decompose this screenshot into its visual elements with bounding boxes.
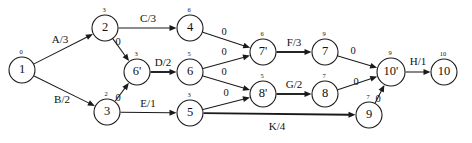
edge-label-e3: C/3 (140, 12, 156, 24)
node-earliest-time: 7 (366, 93, 370, 100)
edge-n3-to-n5 (121, 112, 171, 113)
arrowhead-icon (370, 63, 378, 69)
node-id-label: 10' (384, 64, 399, 78)
node-id-label: 1 (19, 62, 25, 76)
edge-label-e10: 0 (221, 66, 226, 77)
arrowhead-icon (123, 54, 129, 61)
node-4[interactable]: 46 (177, 6, 203, 41)
edge-label-e1: A/3 (52, 33, 69, 45)
edge-n7-to-n10p (338, 56, 371, 66)
node-id-label: 8 (322, 86, 328, 100)
node-id-label: 6 (187, 64, 193, 78)
edge-label-e4: 0 (115, 36, 120, 47)
arrowhead-icon (243, 43, 251, 49)
edge-label-e8: 0 (221, 26, 226, 37)
edge-label-e16: 0 (375, 93, 380, 104)
edge-label-e5: 0 (115, 92, 120, 103)
node-8[interactable]: 87 (312, 72, 338, 107)
edge-label-e12: F/3 (287, 36, 302, 48)
edge-label-e2: B/2 (54, 93, 70, 105)
node-id-label: 8' (259, 86, 268, 100)
node-7-prime[interactable]: 7'6 (250, 30, 276, 65)
node-earliest-time: 6 (260, 30, 264, 37)
arrowhead-icon (242, 96, 250, 102)
arrowhead-icon (305, 91, 312, 97)
arrowhead-icon (170, 69, 177, 75)
node-earliest-time: 9 (388, 49, 391, 56)
node-8-prime[interactable]: 8'5 (250, 72, 276, 107)
nodes-layer: 1023326'34665537'68'579879710'91010 (9, 6, 457, 128)
node-earliest-time: 2 (104, 90, 107, 97)
arrowhead-icon (170, 25, 177, 31)
node-id-label: 3 (104, 104, 110, 118)
node-2[interactable]: 23 (92, 6, 118, 41)
node-id-label: 4 (187, 20, 194, 34)
node-id-label: 7 (322, 44, 328, 58)
edge-n5-to-n9 (204, 113, 350, 115)
edge-label-e18: H/1 (410, 55, 427, 67)
edge-label-e17: K/4 (269, 120, 286, 132)
node-6-prime[interactable]: 6'3 (124, 50, 150, 85)
edge-n5-to-n8p (203, 99, 244, 110)
node-earliest-time: 0 (19, 48, 22, 55)
node-id-label: 7' (259, 44, 268, 58)
node-6[interactable]: 65 (177, 50, 203, 85)
network-diagram: A/3B/2C/300D/2E/10000F/3G/2000K/4H/1 102… (0, 0, 472, 143)
edge-label-e15: 0 (353, 76, 358, 87)
edge-label-e11: 0 (223, 87, 228, 98)
node-1[interactable]: 10 (9, 48, 35, 83)
node-earliest-time: 7 (322, 72, 326, 79)
edge-label-e9: 0 (221, 46, 226, 57)
node-earliest-time: 6 (187, 6, 191, 13)
node-id-label: 5 (187, 105, 193, 119)
node-earliest-time: 3 (102, 6, 105, 13)
arrowhead-icon (122, 83, 129, 90)
edge-label-e14: 0 (350, 45, 355, 56)
node-earliest-time: 5 (187, 50, 190, 57)
arrowhead-icon (370, 76, 378, 82)
node-id-label: 6' (133, 64, 142, 78)
edge-label-e6: D/2 (155, 56, 172, 68)
node-earliest-time: 3 (134, 50, 137, 57)
arrowhead-icon (424, 69, 431, 75)
node-id-label: 9 (366, 107, 372, 121)
arrowhead-icon (242, 55, 250, 61)
node-earliest-time: 5 (260, 72, 263, 79)
arrowhead-icon (305, 49, 312, 55)
node-10-prime[interactable]: 10'9 (377, 49, 405, 86)
node-5[interactable]: 53 (177, 91, 203, 126)
arrowhead-icon (348, 112, 355, 118)
graph-canvas: A/3B/2C/300D/2E/10000F/3G/2000K/4H/1 102… (0, 0, 472, 143)
edge-label-e7: E/1 (140, 97, 155, 109)
edge-label-e13: G/2 (286, 78, 303, 90)
arrowhead-icon (169, 110, 176, 116)
node-earliest-time: 3 (187, 91, 190, 98)
node-10[interactable]: 1010 (431, 50, 457, 85)
node-id-label: 10 (438, 64, 451, 78)
arrowhead-icon (243, 85, 251, 91)
node-earliest-time: 9 (322, 30, 325, 37)
node-7[interactable]: 79 (312, 30, 338, 65)
node-id-label: 2 (102, 20, 108, 34)
node-earliest-time: 10 (440, 50, 447, 57)
